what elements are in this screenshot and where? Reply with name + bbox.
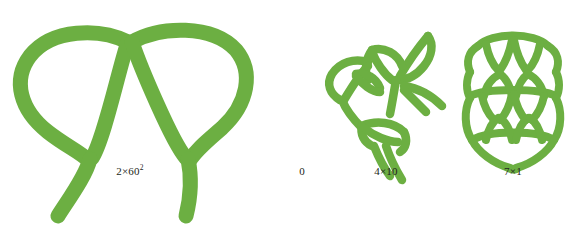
stage4-top-strut-right — [528, 44, 540, 70]
figure-label-stage-2: 0 — [299, 166, 305, 177]
stage1-right-inner-diagonal — [132, 42, 186, 158]
figure-stage-3 — [329, 36, 442, 180]
stage4-bottom-right-edge — [516, 140, 554, 168]
stage1-left-stem — [58, 159, 90, 216]
figure-stage-1 — [20, 30, 246, 216]
stage3-central-strut — [390, 80, 396, 114]
stage4-top-strut-midleft — [500, 40, 512, 70]
figure-label-stage-3-text: 4×10 — [374, 165, 398, 177]
stage4-top-strut-midright — [514, 40, 526, 70]
figure-label-stage-3: 4×10 — [374, 166, 398, 177]
stage1-right-stem — [186, 159, 190, 216]
stage4-low-right-edge — [554, 98, 560, 140]
figure-canvas — [0, 0, 580, 245]
figure-label-stage-1: 2×602 — [116, 166, 143, 177]
figure-label-stage-1-text: 2×60 — [116, 165, 140, 177]
stage4-low-strut-left — [482, 96, 494, 120]
stage4-bottom-left-edge — [472, 140, 510, 168]
figure-stage-4 — [466, 36, 561, 170]
figure-label-stage-1-exponent: 2 — [140, 163, 144, 172]
figure-label-stage-4: 7×1 — [504, 166, 522, 177]
stage1-left-inner-diagonal — [92, 42, 128, 158]
figure-label-stage-2-text: 0 — [299, 165, 305, 177]
stage4-top-strut-left — [486, 44, 498, 70]
figure-label-stage-4-text: 7×1 — [504, 165, 522, 177]
figure-page: 2×602 0 4×10 7×1 — [0, 0, 580, 245]
stage4-low-left-edge — [466, 98, 472, 140]
